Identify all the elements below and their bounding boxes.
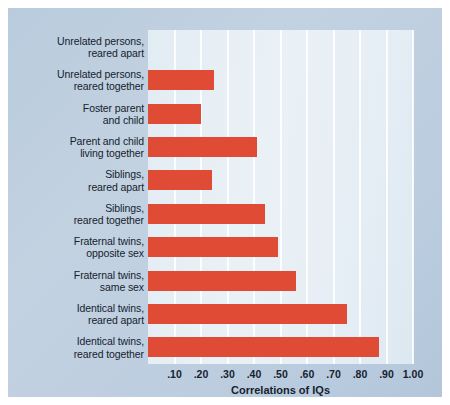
category-label: Siblings,reared apart bbox=[20, 168, 144, 192]
bar bbox=[148, 204, 265, 224]
chart-panel-background: Unrelated persons,reared apartUnrelated … bbox=[8, 8, 442, 397]
x-tick-label: .90 bbox=[379, 368, 394, 380]
category-label: Identical twins,reared apart bbox=[20, 302, 144, 326]
category-axis-labels: Unrelated persons,reared apartUnrelated … bbox=[20, 30, 144, 364]
category-label: Unrelated persons,reared apart bbox=[20, 35, 144, 59]
x-tick-label: .10 bbox=[167, 368, 182, 380]
bar bbox=[148, 137, 257, 157]
bar bbox=[148, 104, 201, 124]
x-tick-label: .40 bbox=[247, 368, 262, 380]
x-axis-title: Correlations of IQs bbox=[148, 384, 413, 396]
x-tick-label: .30 bbox=[220, 368, 235, 380]
x-tick-label: .50 bbox=[273, 368, 288, 380]
x-tick-label: .20 bbox=[194, 368, 209, 380]
x-tick-label: .70 bbox=[326, 368, 341, 380]
x-tick-label: .80 bbox=[353, 368, 368, 380]
bar bbox=[148, 170, 212, 190]
chart-figure: Unrelated persons,reared apartUnrelated … bbox=[0, 0, 450, 405]
x-tick-label: 1.00 bbox=[403, 368, 423, 380]
category-label: Identical twins,reared together bbox=[20, 335, 144, 359]
category-label: Fraternal twins,opposite sex bbox=[20, 235, 144, 259]
x-axis-tick-labels: .10.20.30.40.50.60.70.80.901.00 bbox=[8, 368, 450, 382]
bars-group bbox=[148, 30, 413, 364]
bar bbox=[148, 70, 214, 90]
bar bbox=[148, 337, 379, 357]
bar bbox=[148, 304, 347, 324]
category-label: Fraternal twins,same sex bbox=[20, 269, 144, 293]
bar bbox=[148, 271, 296, 291]
category-label: Unrelated persons,reared together bbox=[20, 68, 144, 92]
x-tick-label: .60 bbox=[300, 368, 315, 380]
category-label: Foster parentand child bbox=[20, 102, 144, 126]
bar bbox=[148, 237, 278, 257]
category-label: Parent and childliving together bbox=[20, 135, 144, 159]
category-label: Siblings,reared together bbox=[20, 202, 144, 226]
